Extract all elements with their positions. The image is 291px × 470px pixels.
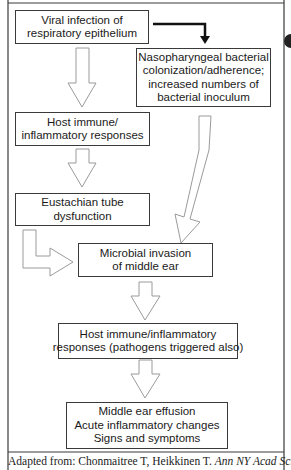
node-text: Microbial invasion	[100, 247, 191, 261]
node-microbial-invasion: Microbial invasion of middle ear	[78, 243, 213, 277]
node-host-immune-1: Host immune/ inflammatory responses	[15, 112, 150, 146]
node-eustachian-tube: Eustachian tube dysfunction	[15, 193, 150, 226]
node-text: Host immune/inflammatory	[80, 328, 217, 342]
source-caption: Adapted from: Chonmaitree T, Heikkinen T…	[8, 455, 284, 467]
node-text: dysfunction	[53, 210, 111, 224]
hollow-elbow-arrow-icon	[23, 230, 73, 276]
node-viral-infection: Viral infection of respiratory epitheliu…	[15, 10, 149, 44]
black-arrow-icon	[153, 24, 210, 44]
hollow-diagonal-arrow-icon	[175, 116, 211, 243]
node-text: inflammatory responses	[21, 129, 143, 143]
node-text: respiratory epithelium	[27, 27, 137, 41]
node-text: Nasopharyngeal bacterial	[138, 51, 268, 65]
node-text: Signs and symptoms	[94, 432, 201, 446]
node-text: Acute inflammatory changes	[74, 419, 219, 433]
node-text: increased numbers of	[148, 78, 259, 92]
node-text: Viral infection of	[41, 14, 123, 28]
node-text: Middle ear effusion	[99, 405, 196, 419]
hollow-down-arrow-icon	[68, 149, 96, 187]
node-text: Eustachian tube	[41, 196, 123, 210]
hollow-down-arrow-icon	[131, 282, 160, 320]
node-host-immune-2: Host immune/inflammatory responses (path…	[58, 323, 238, 359]
node-text: colonization/adherence;	[143, 64, 264, 78]
hollow-down-arrow-icon	[131, 360, 160, 398]
page-edge-mark	[284, 34, 291, 48]
node-text: responses (pathogens triggered also)	[53, 341, 244, 355]
node-text: of middle ear	[112, 260, 178, 274]
node-text: Host immune/	[47, 116, 118, 130]
node-bacterial-colonization: Nasopharyngeal bacterial colonization/ad…	[136, 48, 271, 107]
node-outcome: Middle ear effusion Acute inflammatory c…	[66, 402, 228, 449]
caption-authors: Adapted from: Chonmaitree T, Heikkinen T…	[8, 455, 215, 467]
diagram-canvas: Viral infection of respiratory epitheliu…	[0, 0, 291, 470]
node-text: bacterial inoculum	[157, 91, 250, 105]
hollow-down-arrow-icon	[68, 48, 96, 107]
caption-journal: Ann NY Acad Sci.	[215, 455, 291, 467]
